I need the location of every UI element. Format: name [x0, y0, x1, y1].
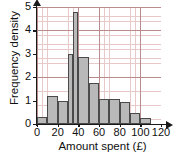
histogram-bar — [99, 99, 109, 124]
histogram-bar — [78, 57, 88, 124]
y-tick — [33, 7, 37, 8]
histogram-bar — [58, 101, 68, 124]
y-tick-label: 0 — [20, 117, 31, 129]
histogram-bar — [120, 102, 130, 124]
y-tick — [33, 124, 37, 125]
plot-area — [37, 7, 161, 124]
y-axis-arrow-icon — [33, 0, 41, 6]
y-tick-label: 4 — [20, 23, 31, 35]
y-tick — [33, 77, 37, 78]
y-tick-label: 3 — [20, 47, 31, 59]
histogram-bar — [109, 99, 119, 124]
y-tick — [33, 54, 37, 55]
histogram-chart: 020406080100120 012345 Amount spent (£) … — [0, 0, 175, 156]
histogram-bar — [89, 83, 99, 124]
y-tick — [33, 30, 37, 31]
y-tick — [33, 101, 37, 102]
histogram-bar — [130, 113, 140, 124]
x-axis-title: Amount spent (£) — [30, 140, 175, 152]
y-tick-label: 1 — [20, 94, 31, 106]
y-tick-label: 5 — [20, 0, 31, 12]
y-tick-label: 2 — [20, 70, 31, 82]
x-tick-label: 120 — [149, 126, 173, 138]
bar-series — [37, 7, 161, 124]
histogram-bar — [47, 96, 57, 124]
y-axis-line — [36, 2, 37, 126]
y-axis-title: Frequency density — [8, 0, 20, 118]
